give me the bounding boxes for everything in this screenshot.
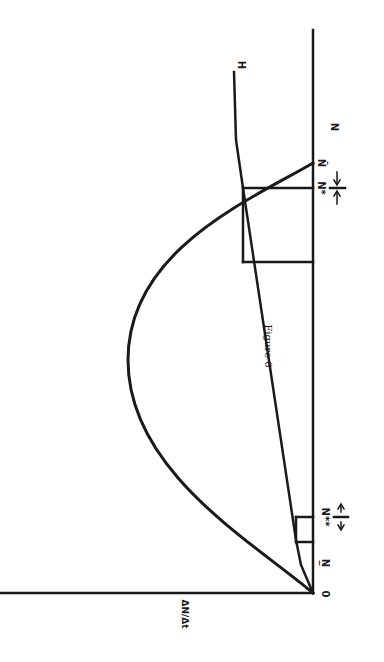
dndt-axis-label: ΔN/Δt <box>180 599 190 629</box>
growth-curve <box>128 163 313 593</box>
n-star-arrows-icon <box>330 172 345 204</box>
n-star-label: N* <box>316 181 327 195</box>
harvest-label: H <box>236 61 247 69</box>
n-double-star-label: N** <box>320 508 331 528</box>
origin-label: 0 <box>320 591 331 598</box>
n-bar-label: N̄ <box>316 159 328 167</box>
figure-caption: Figure 6 <box>263 324 274 367</box>
n-double-star-arrows-icon <box>334 504 348 530</box>
figure-6-diagram: H N N̄ N* N** N̲ 0 ΔN/Δt Figure 6 <box>0 0 384 662</box>
n-lower-label: N̲ <box>319 559 331 567</box>
n-axis-label: N <box>329 123 340 131</box>
